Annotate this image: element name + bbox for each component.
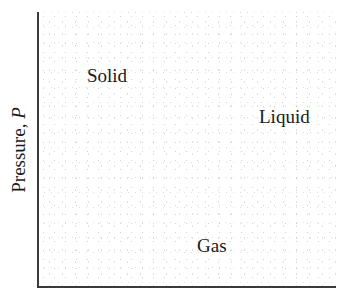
y-axis-label-text: Pressure, (8, 119, 29, 193)
x-axis-line (37, 286, 336, 288)
y-axis-line (37, 12, 39, 288)
region-label-liquid: Liquid (259, 107, 310, 126)
plot-area (38, 12, 336, 287)
y-axis-label-variable: P (8, 107, 29, 119)
y-axis-label: Pressure, P (9, 107, 28, 193)
region-label-gas: Gas (197, 236, 227, 255)
region-label-solid: Solid (87, 66, 127, 85)
